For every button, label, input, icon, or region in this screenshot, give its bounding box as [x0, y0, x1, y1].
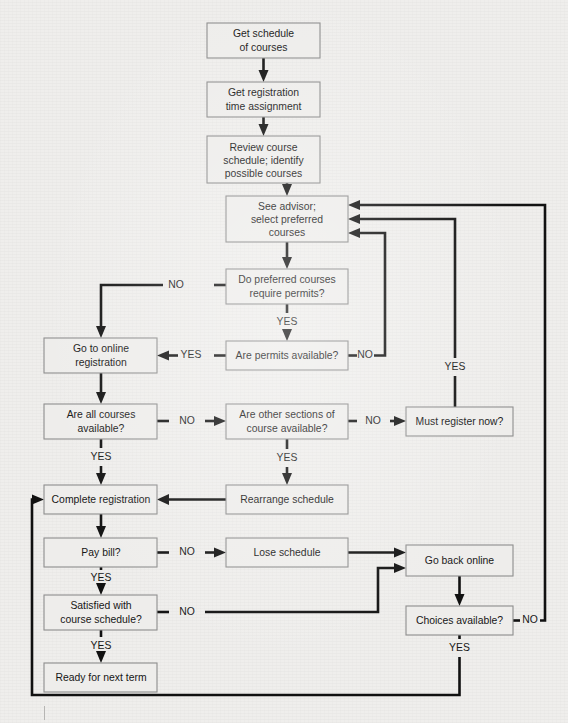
node-satisfied-with-course-schedule[interactable]: Satisfied with course schedule? — [44, 595, 157, 630]
node-go-to-online-registration[interactable]: Go to online registration — [44, 338, 157, 373]
node-see-advisor-line-1: select preferred — [251, 214, 323, 225]
flowchart-page: Get schedule of courses Get registration… — [0, 0, 568, 723]
node-get-registration[interactable]: Get registration time assignment — [207, 82, 320, 117]
edge-label-other-sections-no: NO — [365, 415, 381, 426]
node-other-sections-line-1: course available? — [247, 423, 328, 434]
edge-review-to-see-advisor — [282, 183, 292, 196]
node-ready-for-next-term[interactable]: Ready for next term — [44, 663, 157, 692]
edge-label-satisfied-yes: YES — [91, 640, 112, 651]
node-complete-registration-line-0: Complete registration — [52, 494, 151, 505]
node-go-online-line-1: registration — [75, 357, 127, 368]
node-review-course-line-0: Review course — [229, 142, 297, 153]
node-are-all-courses-available[interactable]: Are all courses available? — [44, 404, 157, 439]
edge-label-satisfied-no: NO — [179, 606, 195, 617]
node-see-advisor-line-2: courses — [269, 227, 305, 238]
node-choices-available-line-0: Choices available? — [416, 615, 503, 626]
edge-lose-schedule-to-go-back-online — [348, 548, 406, 558]
node-require-permits-line-1: require permits? — [249, 288, 324, 299]
edge-label-permits-available-no: NO — [357, 349, 373, 360]
node-ready-next-term-line-0: Ready for next term — [55, 672, 146, 683]
node-lose-schedule[interactable]: Lose schedule — [226, 538, 348, 567]
node-get-schedule[interactable]: Get schedule of courses — [207, 23, 320, 58]
node-permits-available[interactable]: Are permits available? — [226, 341, 348, 370]
flowchart-canvas: Get schedule of courses Get registration… — [0, 0, 568, 723]
node-go-back-online[interactable]: Go back online — [406, 545, 513, 576]
edge-label-pay-bill-no: NO — [179, 546, 195, 557]
node-review-course[interactable]: Review course schedule; identify possibl… — [207, 136, 320, 183]
node-see-advisor-line-0: See advisor; — [258, 201, 316, 212]
page-margin-mark — [44, 706, 45, 720]
edge-complete-registration-to-pay-bill — [96, 514, 106, 538]
node-rearrange-schedule[interactable]: Rearrange schedule — [226, 485, 348, 514]
edge-label-all-courses-no: NO — [179, 415, 195, 426]
edge-go-back-online-to-choices-available — [455, 576, 465, 606]
node-lose-schedule-line-0: Lose schedule — [253, 547, 320, 558]
node-rearrange-line-0: Rearrange schedule — [240, 494, 334, 505]
node-get-schedule-line-1: of courses — [240, 42, 288, 53]
node-satisfied-line-0: Satisfied with — [70, 600, 131, 611]
edge-see-advisor-to-require-permits — [282, 242, 292, 269]
node-must-register-line-0: Must register now? — [416, 416, 504, 427]
edge-satisfied-no-to-go-back-online — [157, 563, 406, 612]
node-get-schedule-line-0: Get schedule — [233, 28, 294, 39]
edge-rearrange-to-complete-registration — [157, 494, 226, 505]
node-permits-available-line-0: Are permits available? — [236, 350, 339, 361]
node-go-back-online-line-0: Go back online — [425, 555, 495, 566]
edge-all-courses-yes-to-complete-registration — [96, 439, 106, 485]
node-choices-available[interactable]: Choices available? — [406, 606, 513, 635]
node-get-registration-line-1: time assignment — [226, 101, 302, 112]
edge-require-permits-no-to-go-online — [96, 285, 226, 338]
edge-label-require-permits-no: NO — [168, 279, 184, 290]
edge-get-registration-to-review — [259, 117, 269, 136]
node-all-courses-line-1: available? — [78, 423, 125, 434]
node-pay-bill-line-0: Pay bill? — [81, 547, 120, 558]
flowchart-nodes: Get schedule of courses Get registration… — [44, 23, 513, 692]
edge-go-online-to-all-courses — [96, 373, 106, 404]
edge-label-choices-available-yes: YES — [449, 642, 470, 653]
node-go-online-line-0: Go to online — [73, 343, 129, 354]
node-satisfied-line-1: course schedule? — [60, 614, 142, 625]
edge-label-other-sections-yes: YES — [277, 452, 298, 463]
node-other-sections-available[interactable]: Are other sections of course available? — [226, 404, 348, 439]
edge-label-all-courses-yes: YES — [91, 451, 112, 462]
edge-label-must-register-yes: YES — [445, 361, 466, 372]
node-review-course-line-2: possible courses — [225, 168, 302, 179]
node-require-permits-line-0: Do preferred courses — [238, 274, 336, 285]
node-review-course-line-1: schedule; identify — [223, 155, 304, 166]
edge-must-register-yes-to-see-advisor — [348, 214, 455, 407]
node-complete-registration[interactable]: Complete registration — [44, 485, 157, 514]
node-all-courses-line-0: Are all courses — [67, 409, 136, 420]
node-get-registration-line-0: Get registration — [228, 87, 299, 98]
node-pay-bill[interactable]: Pay bill? — [44, 538, 157, 567]
node-require-permits[interactable]: Do preferred courses require permits? — [226, 269, 348, 304]
node-other-sections-line-0: Are other sections of — [239, 409, 334, 420]
edge-label-pay-bill-yes: YES — [91, 572, 112, 583]
edge-label-choices-available-no: NO — [522, 614, 538, 625]
edge-label-permits-available-yes: YES — [181, 349, 202, 360]
node-see-advisor[interactable]: See advisor; select preferred courses — [226, 196, 348, 242]
edge-permits-available-no-to-see-advisor — [348, 228, 385, 356]
edge-get-schedule-to-get-registration — [259, 58, 269, 82]
edge-label-require-permits-yes: YES — [277, 316, 298, 327]
flowchart-edge-labels: NO YES YES NO NO YES NO YES YES NO YES N… — [91, 279, 538, 653]
node-must-register-now[interactable]: Must register now? — [406, 407, 513, 436]
